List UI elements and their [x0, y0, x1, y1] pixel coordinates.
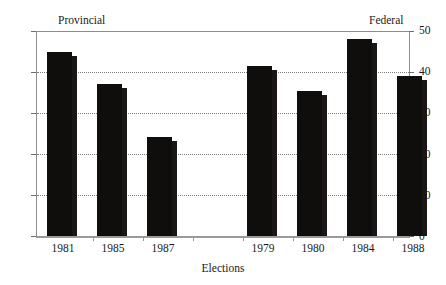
bar-1985	[97, 84, 122, 236]
ytick-left-40	[31, 72, 36, 73]
bar-1981	[47, 52, 72, 236]
group-caption-federal: Federal	[369, 14, 403, 26]
bar-1979	[247, 66, 272, 236]
ytick-left-20	[31, 154, 36, 155]
bar-1984	[347, 39, 372, 236]
ytick-left-10	[31, 195, 36, 196]
xtick-7	[393, 236, 394, 241]
group-caption-provincial: Provincial	[58, 14, 105, 26]
xtick-2	[143, 236, 144, 241]
xtick-4	[243, 236, 244, 241]
x-axis-title: Elections	[0, 262, 446, 274]
bar-1988	[397, 76, 422, 236]
xtick-5	[293, 236, 294, 241]
xtick-label-1979: 1979	[243, 242, 283, 254]
ytick-right-0	[409, 236, 414, 237]
bar-1987	[147, 137, 172, 236]
ytick-right-50	[409, 31, 414, 32]
ytick-left-30	[31, 113, 36, 114]
xtick-label-1981: 1981	[43, 242, 83, 254]
axis-left-line	[36, 31, 37, 237]
xtick-label-1987: 1987	[143, 242, 183, 254]
ytick-left-50	[31, 31, 36, 32]
xtick-label-1985: 1985	[93, 242, 133, 254]
ytick-right-40	[409, 72, 414, 73]
xtick-3	[193, 236, 194, 241]
ytick-label-right-50: 50	[419, 25, 431, 37]
axis-top-line	[36, 31, 410, 32]
xtick-1	[93, 236, 94, 241]
xtick-label-1980: 1980	[293, 242, 333, 254]
ytick-left-0	[31, 236, 36, 237]
xtick-6	[343, 236, 344, 241]
xtick-label-1984: 1984	[343, 242, 383, 254]
bar-1980	[297, 91, 322, 236]
xtick-label-1988: 1988	[393, 242, 433, 254]
plot-area	[36, 31, 410, 237]
bar-chart-figure: Provincial Federal 50 40 30 20 10 0 50 4…	[0, 0, 446, 285]
